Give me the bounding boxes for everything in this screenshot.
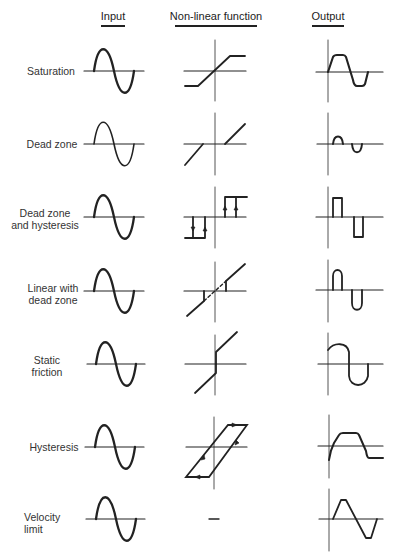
out-dead-zone-hysteresis bbox=[316, 187, 383, 248]
arrow-right-icon bbox=[232, 423, 237, 427]
nl-hysteresis bbox=[186, 417, 247, 489]
output-column bbox=[316, 40, 383, 551]
input-sine-velocity-limit bbox=[86, 497, 145, 541]
nl-linear-dead-zone bbox=[184, 262, 246, 322]
arrow-up-icon bbox=[235, 440, 239, 445]
input-sine-dead-zone bbox=[84, 122, 144, 166]
out-velocity-limit bbox=[319, 489, 383, 551]
nonlinearity-diagram bbox=[0, 0, 396, 558]
arrow-up-icon bbox=[234, 206, 238, 210]
arrow-right-icon bbox=[195, 475, 200, 479]
nl-dead-zone bbox=[184, 113, 246, 175]
out-dead-zone bbox=[317, 113, 383, 175]
out-linear-dead-zone bbox=[316, 260, 383, 322]
input-sine-hysteresis bbox=[85, 425, 144, 469]
input-sine-dead-zone-hysteresis bbox=[84, 195, 144, 239]
out-static-friction bbox=[318, 333, 383, 395]
arrow-up-icon bbox=[203, 227, 207, 231]
nl-static-friction bbox=[185, 332, 246, 395]
input-sine-linear-dead-zone bbox=[84, 269, 144, 313]
nl-saturation bbox=[184, 40, 246, 101]
arrow-down-icon bbox=[191, 227, 195, 231]
out-hysteresis bbox=[318, 415, 383, 478]
input-sine-static-friction bbox=[87, 342, 145, 386]
nonlinear-column bbox=[184, 40, 247, 519]
input-column bbox=[84, 49, 145, 541]
out-saturation bbox=[316, 40, 383, 102]
arrow-up-icon bbox=[223, 206, 227, 210]
nl-dead-zone-hysteresis bbox=[184, 187, 247, 248]
input-sine-saturation bbox=[84, 49, 144, 93]
